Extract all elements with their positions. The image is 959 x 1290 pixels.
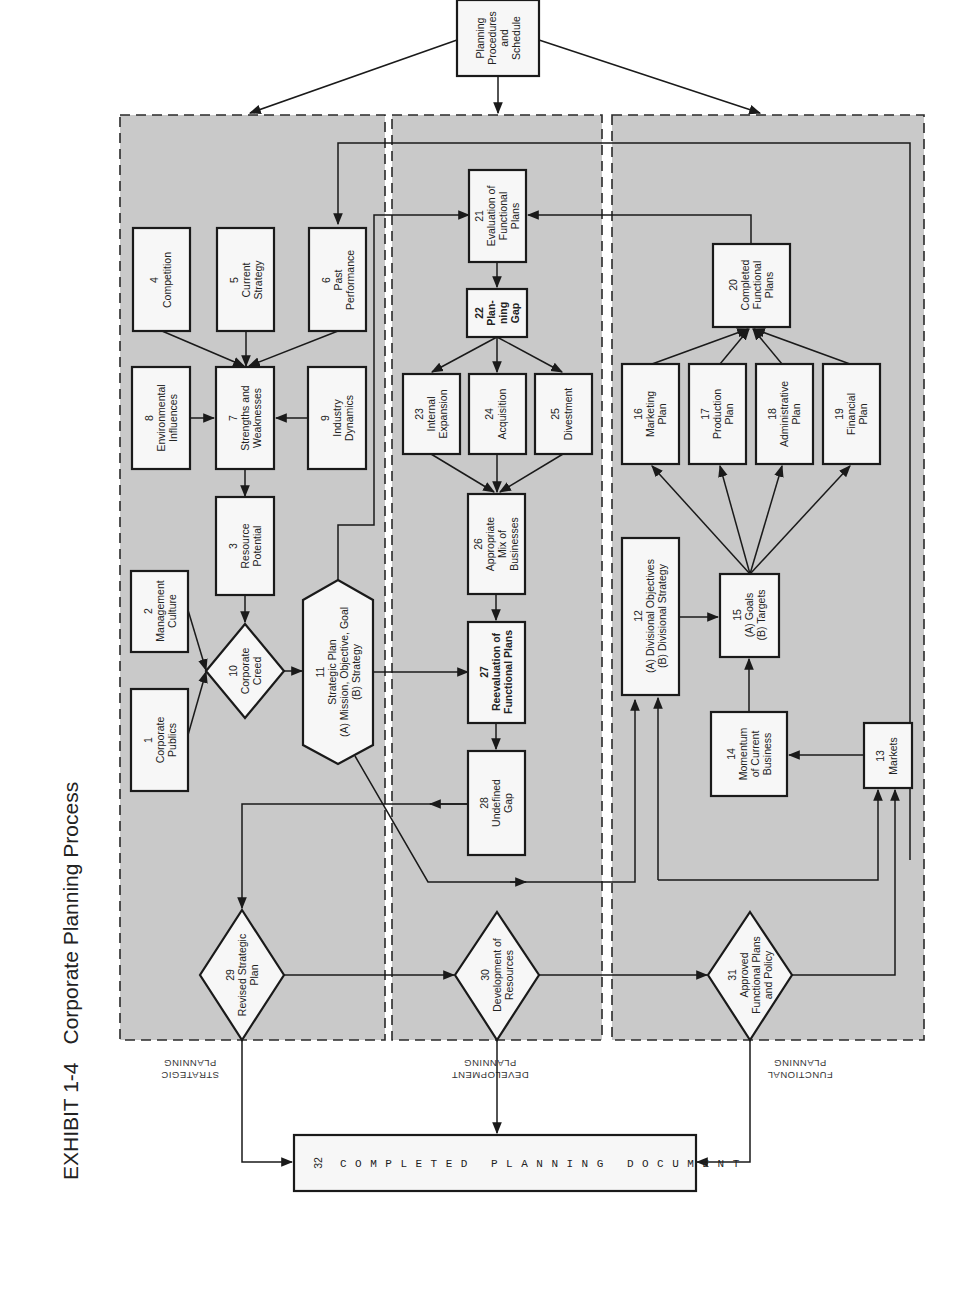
svg-text:Influences: Influences xyxy=(167,394,179,442)
svg-text:23: 23 xyxy=(413,408,425,420)
svg-text:(B) Targets: (B) Targets xyxy=(755,589,767,640)
svg-text:EXHIBIT 1-4Corporate Planning: EXHIBIT 1-4Corporate Planning Process xyxy=(59,782,82,1180)
svg-text:Strengths and: Strengths and xyxy=(239,385,251,451)
svg-text:Plans: Plans xyxy=(509,203,521,229)
svg-text:Functional Plans: Functional Plans xyxy=(750,936,762,1014)
svg-text:Dynamics: Dynamics xyxy=(343,395,355,441)
svg-text:2: 2 xyxy=(142,608,154,614)
svg-text:Plan: Plan xyxy=(857,403,869,424)
svg-text:28: 28 xyxy=(478,797,490,809)
svg-text:(A) Mission, Objective, Goal: (A) Mission, Objective, Goal xyxy=(338,607,350,737)
svg-text:31: 31 xyxy=(726,969,738,981)
svg-text:25: 25 xyxy=(549,408,561,420)
svg-text:Momentum: Momentum xyxy=(737,727,749,780)
svg-text:16: 16 xyxy=(632,408,644,420)
svg-text:Appropriate: Appropriate xyxy=(484,517,496,571)
svg-text:Plan: Plan xyxy=(248,964,260,985)
svg-text:20: 20 xyxy=(727,279,739,291)
svg-text:11: 11 xyxy=(314,666,326,677)
svg-text:of Current: of Current xyxy=(749,731,761,778)
exhibit-number: EXHIBIT 1-4 xyxy=(59,1062,82,1180)
svg-text:Functional Plans: Functional Plans xyxy=(502,630,514,714)
svg-text:Environmental: Environmental xyxy=(155,384,167,451)
svg-text:Plan: Plan xyxy=(790,403,802,424)
svg-text:Plan-: Plan- xyxy=(485,300,497,326)
svg-text:PLANNING: PLANNING xyxy=(774,1058,827,1069)
svg-text:Financial: Financial xyxy=(845,393,857,435)
svg-text:4: 4 xyxy=(148,277,160,283)
svg-text:Procedures: Procedures xyxy=(486,11,498,65)
svg-text:Markets: Markets xyxy=(887,737,899,774)
svg-text:Undefined: Undefined xyxy=(490,779,502,827)
svg-text:and Policy: and Policy xyxy=(762,950,774,999)
svg-text:Revised Strategic: Revised Strategic xyxy=(236,934,248,1016)
svg-text:DEVELOPMENT: DEVELOPMENT xyxy=(451,1070,528,1081)
svg-text:PLANNING: PLANNING xyxy=(164,1058,217,1069)
svg-text:Gap: Gap xyxy=(502,793,514,813)
svg-text:7: 7 xyxy=(227,415,239,421)
svg-text:14: 14 xyxy=(725,748,737,760)
svg-text:ning: ning xyxy=(497,302,509,324)
svg-text:Plans: Plans xyxy=(763,272,775,298)
svg-text:Functional: Functional xyxy=(751,261,763,309)
svg-text:19: 19 xyxy=(833,408,845,420)
lane-label-development: PLANNING DEVELOPMENT xyxy=(451,1058,528,1081)
svg-text:32: 32 xyxy=(312,1157,324,1169)
corporate-planning-diagram: EXHIBIT 1-4Corporate Planning Process PL… xyxy=(0,0,959,1290)
svg-text:Functional: Functional xyxy=(497,192,509,240)
svg-text:Internal: Internal xyxy=(425,396,437,431)
svg-text:Weaknesses: Weaknesses xyxy=(251,388,263,448)
svg-text:24: 24 xyxy=(483,408,495,420)
svg-text:Resource: Resource xyxy=(239,523,251,568)
svg-text:3: 3 xyxy=(227,543,239,549)
svg-text:(B) Strategy: (B) Strategy xyxy=(350,643,362,700)
svg-text:and: and xyxy=(498,29,510,47)
svg-text:10: 10 xyxy=(227,665,239,677)
svg-text:Reevaluation of: Reevaluation of xyxy=(490,632,502,711)
svg-text:Corporate: Corporate xyxy=(154,717,166,764)
svg-text:15: 15 xyxy=(731,609,743,621)
svg-text:Marketing: Marketing xyxy=(644,391,656,437)
svg-text:Resources: Resources xyxy=(503,950,515,1000)
svg-text:Administrative: Administrative xyxy=(778,381,790,447)
svg-text:STRATEGIC: STRATEGIC xyxy=(161,1070,219,1081)
svg-text:Creed: Creed xyxy=(251,657,263,686)
svg-text:18: 18 xyxy=(766,408,778,420)
svg-text:(A) Goals: (A) Goals xyxy=(743,593,755,637)
svg-text:22: 22 xyxy=(473,307,485,319)
svg-text:Evaluation of: Evaluation of xyxy=(485,186,497,247)
svg-text:1: 1 xyxy=(142,737,154,743)
lane-label-strategic: PLANNING STRATEGIC xyxy=(161,1058,219,1081)
svg-text:29: 29 xyxy=(224,969,236,981)
svg-text:Businesses: Businesses xyxy=(508,517,520,571)
svg-text:Approved: Approved xyxy=(738,952,750,997)
svg-text:5: 5 xyxy=(228,277,240,283)
svg-text:Business: Business xyxy=(761,733,773,776)
svg-text:Past: Past xyxy=(332,269,344,290)
svg-text:COMPLETED PLANNING DOCUMENT: COMPLETED PLANNING DOCUMENT xyxy=(340,1158,748,1170)
svg-text:Strategic Plan: Strategic Plan xyxy=(326,639,338,705)
svg-text:(A) Divisional Objectives: (A) Divisional Objectives xyxy=(644,559,656,673)
svg-text:26: 26 xyxy=(472,538,484,550)
svg-text:27: 27 xyxy=(478,666,490,678)
svg-text:Divestment: Divestment xyxy=(562,388,574,441)
lane-label-functional: PLANNING FUNCTIONAL xyxy=(767,1058,833,1081)
svg-text:Potential: Potential xyxy=(251,526,263,567)
svg-text:Competition: Competition xyxy=(161,252,173,308)
exhibit-name: Corporate Planning Process xyxy=(59,782,82,1045)
svg-text:9: 9 xyxy=(319,415,331,421)
svg-text:PLANNING: PLANNING xyxy=(464,1058,517,1069)
svg-text:Expansion: Expansion xyxy=(437,389,449,438)
svg-text:Development of: Development of xyxy=(491,938,503,1012)
svg-text:Strategy: Strategy xyxy=(252,260,264,300)
svg-text:Mix of: Mix of xyxy=(496,530,508,558)
svg-text:Publics: Publics xyxy=(166,723,178,757)
svg-text:Management: Management xyxy=(154,580,166,641)
exhibit-title: EXHIBIT 1-4Corporate Planning Process xyxy=(59,782,82,1180)
svg-text:13: 13 xyxy=(874,750,886,762)
svg-text:Acquisition: Acquisition xyxy=(496,388,508,439)
svg-text:Gap: Gap xyxy=(509,303,521,323)
svg-text:17: 17 xyxy=(699,408,711,420)
svg-text:Plan: Plan xyxy=(656,403,668,424)
svg-text:6: 6 xyxy=(320,277,332,283)
